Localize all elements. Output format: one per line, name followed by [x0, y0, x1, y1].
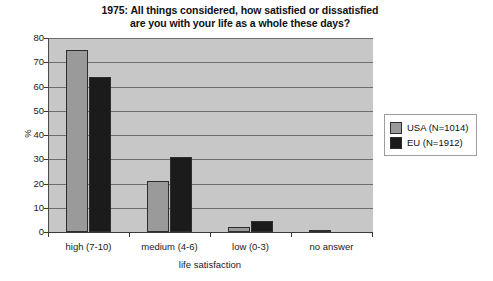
y-tick-label: 20 — [6, 179, 44, 189]
x-tick-label-1: medium (4-6) — [129, 241, 210, 252]
bar-usa-0 — [66, 50, 88, 232]
bar-usa-1 — [147, 181, 169, 232]
legend-swatch-usa-icon — [390, 122, 402, 134]
bars-layer — [48, 38, 372, 232]
legend-label: USA (N=1014) — [407, 122, 469, 133]
y-tick-label: 30 — [6, 154, 44, 164]
y-tick-label: 0 — [6, 227, 44, 237]
bar-eu-0 — [89, 77, 111, 232]
legend-swatch-eu-icon — [390, 137, 402, 149]
x-axis-title: life satisfaction — [48, 259, 372, 270]
x-tick-label-3: no answer — [291, 241, 372, 252]
y-tick-label: 80 — [6, 33, 44, 43]
x-tick-label-2: low (0-3) — [210, 241, 291, 252]
y-tick-label: 70 — [6, 57, 44, 67]
bar-eu-1 — [170, 157, 192, 232]
y-axis-title: % — [22, 129, 33, 137]
x-tick-mark — [129, 233, 130, 237]
legend-item-eu[interactable]: EU (N=1912) — [390, 135, 469, 150]
x-tick-mark — [48, 233, 49, 237]
bar-eu-2 — [251, 221, 273, 232]
y-tick-label: 50 — [6, 106, 44, 116]
y-tick-label: 10 — [6, 203, 44, 213]
chart-title-line-1: 1975: All things considered, how satisfi… — [40, 4, 440, 17]
legend-item-usa[interactable]: USA (N=1014) — [390, 120, 469, 135]
chart-title: 1975: All things considered, how satisfi… — [40, 4, 440, 30]
bar-chart-figure: 1975: All things considered, how satisfi… — [0, 0, 493, 281]
chart-title-line-2: are you with your life as a whole these … — [40, 17, 440, 30]
x-tick-label-0: high (7-10) — [48, 241, 129, 252]
legend-label: EU (N=1912) — [407, 137, 463, 148]
y-axis: 80706050403020100 — [0, 0, 44, 281]
legend: USA (N=1014)EU (N=1912) — [384, 114, 477, 156]
x-tick-mark — [210, 233, 211, 237]
y-tick-label: 60 — [6, 82, 44, 92]
x-tick-mark — [291, 233, 292, 237]
x-tick-mark — [372, 233, 373, 237]
